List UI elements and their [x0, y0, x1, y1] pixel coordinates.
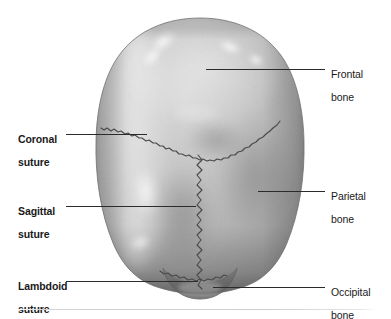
label-coronal-suture-line2: suture: [18, 157, 57, 169]
label-parietal-bone-line1: Parietal: [331, 191, 366, 203]
label-coronal-suture-line1: Coronal: [18, 134, 57, 146]
label-frontal-bone-line1: Frontal: [331, 69, 363, 81]
cranium-group: [90, 2, 312, 302]
figure-baseline-rule: [18, 309, 376, 310]
label-lambdoid-suture: Lambdoid suture: [18, 269, 67, 319]
label-sagittal-suture: Sagittal suture: [18, 194, 55, 252]
label-frontal-bone-line2: bone: [331, 92, 363, 104]
label-occipital-bone: Occipital bone: [331, 275, 370, 319]
label-occipital-bone-line2: bone: [331, 310, 370, 319]
label-parietal-bone: Parietal bone: [331, 179, 366, 237]
label-frontal-bone: Frontal bone: [331, 57, 363, 115]
label-parietal-bone-line2: bone: [331, 214, 366, 226]
label-occipital-bone-line1: Occipital: [331, 287, 370, 299]
label-sagittal-suture-line1: Sagittal: [18, 206, 55, 218]
skull-diagram-figure: Coronal suture Sagittal suture Lambdoid …: [0, 0, 391, 319]
label-lambdoid-suture-line1: Lambdoid: [18, 281, 67, 293]
label-coronal-suture: Coronal suture: [18, 122, 57, 180]
label-sagittal-suture-line2: suture: [18, 229, 55, 241]
